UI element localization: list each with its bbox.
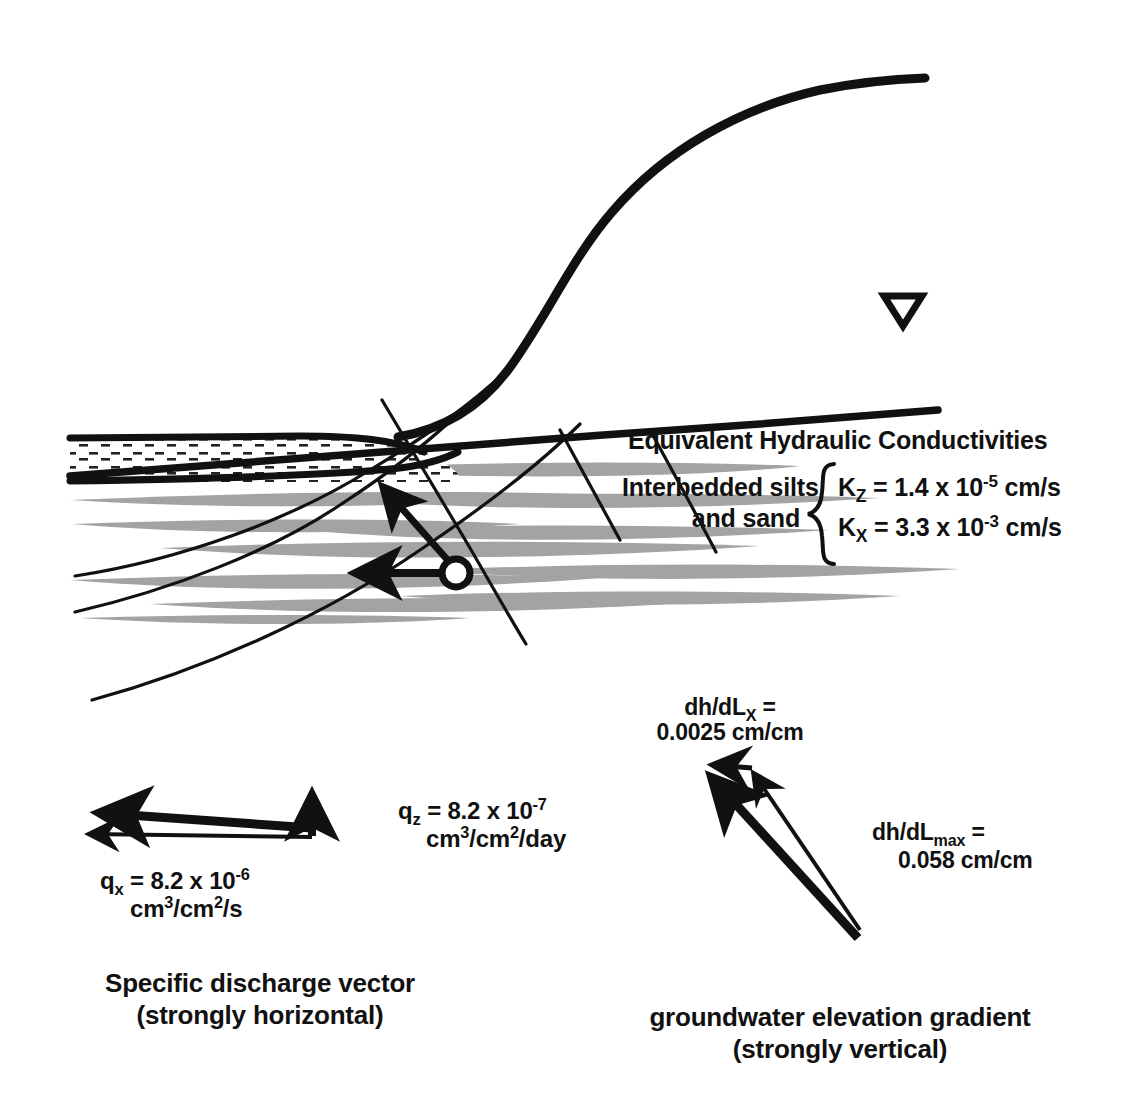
dhdlmax-component-arrow [754,774,860,930]
qx-mantissa: 8.2 x 10 [150,867,235,894]
unit-name-label: Interbedded silts and sand [622,472,800,533]
discharge-caption-line2: (strongly horizontal) [136,1000,383,1030]
diagram-canvas [0,0,1129,1096]
kx-exponent: -3 [984,512,999,531]
unit-name-line1: Interbedded silts [622,473,819,501]
qz-exponent: -7 [533,795,547,813]
curly-brace-icon [804,462,838,566]
gradient-vector-caption: groundwater elevation gradient (strongly… [620,1002,1060,1065]
kz-subscript: Z [856,486,867,506]
qx-units-suffix: /s [223,895,243,922]
qx-units-exp2: 2 [214,893,223,911]
kx-equals: = [867,513,895,541]
dhdlx-value: 0.0025 cm/cm [600,718,860,746]
legend-title: Equivalent Hydraulic Conductivities [628,425,1047,456]
qx-component-arrow [90,834,312,837]
qz-units-suffix: /day [519,825,566,852]
specific-discharge-vector-glyph [90,795,312,837]
qx-units-mid: /cm [173,895,214,922]
kx-symbol: K [838,513,856,541]
kz-equals: = [866,473,894,501]
kz-value-label: KZ = 1.4 x 10-5 cm/s [838,472,1061,503]
kx-value-label: KX = 3.3 x 10-3 cm/s [838,512,1062,543]
dhdlmax-prefix: dh/dL [872,819,934,845]
dhdlx-component-arrow [714,765,752,768]
qz-units-prefix: cm [426,825,460,852]
unit-name-line2: and sand [692,504,800,532]
kz-exponent: -5 [983,472,998,491]
silt-lens [70,574,600,589]
discharge-vector-caption: Specific discharge vector (strongly hori… [60,968,460,1031]
qx-exponent: -6 [236,865,250,883]
gradient-vector-glyph [712,765,860,938]
qz-symbol: q [398,797,412,824]
silt-lens [80,615,470,624]
gradient-caption-line1: groundwater elevation gradient [649,1002,1030,1032]
qx-units-prefix: cm [130,895,164,922]
qx-units-exp1: 3 [164,893,173,911]
qz-units-mid: /cm [469,825,510,852]
qx-units-label: cm3/cm2/s [100,894,242,923]
qz-mantissa: 8.2 x 10 [447,797,532,824]
kx-units: cm/s [999,513,1062,541]
qz-units-exp2: 2 [510,823,519,841]
dhdlx-equals: = [756,694,775,720]
land-surface-line [398,78,925,437]
qz-units-exp1: 3 [460,823,469,841]
dhdlmax-value: 0.058 cm/cm [872,846,1033,874]
qx-equals: = [124,867,151,894]
dhdlx-label: dh/dLX = [600,693,860,721]
observation-point-icon [442,559,470,587]
hydrogeologic-cross-section-figure: Equivalent Hydraulic Conductivities Inte… [0,0,1129,1096]
dhdlx-prefix: dh/dL [684,694,746,720]
qx-symbol: q [100,867,114,894]
kx-mantissa: 3.3 x 10 [895,513,984,541]
kz-mantissa: 1.4 x 10 [894,473,983,501]
kz-symbol: K [838,473,856,501]
dhdlmax-label: dh/dLmax = [872,818,985,846]
qz-units-label: cm3/cm2/day [398,824,566,853]
water-table-triangle-icon [884,296,922,326]
gradient-caption-line2: (strongly vertical) [733,1034,947,1064]
dhdlmax-equals: = [965,819,984,845]
discharge-caption-line1: Specific discharge vector [105,968,415,998]
qz-value-label: qz = 8.2 x 10-7 [398,796,547,825]
kz-units: cm/s [998,473,1061,501]
resultant-discharge-arrow [100,813,312,828]
qx-value-label: qx = 8.2 x 10-6 [100,866,250,895]
flow-line [560,430,620,540]
qz-equals: = [421,797,448,824]
kx-subscript: X [856,526,867,546]
resultant-gradient-arrow [712,778,858,938]
